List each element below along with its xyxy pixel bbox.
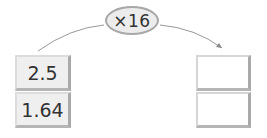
input-value-2: 1.64 bbox=[21, 99, 63, 121]
input-box-2: 1.64 bbox=[15, 92, 71, 128]
input-box-1: 2.5 bbox=[15, 55, 71, 91]
answer-box-1[interactable] bbox=[196, 55, 251, 91]
answer-box-2[interactable] bbox=[196, 92, 251, 128]
input-value-1: 2.5 bbox=[27, 62, 57, 84]
operation-oval: ×16 bbox=[105, 6, 159, 35]
operation-label: ×16 bbox=[113, 11, 150, 31]
arrowhead-icon bbox=[216, 43, 222, 48]
